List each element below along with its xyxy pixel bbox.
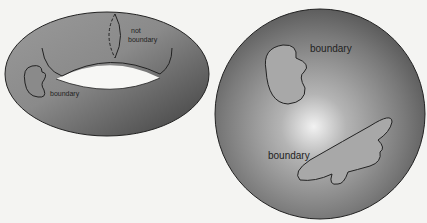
figure-canvas: not boundary boundary boundary boundary — [0, 0, 427, 223]
torus: not boundary boundary — [5, 12, 209, 136]
sphere-boundary-label-bottom: boundary — [268, 150, 310, 161]
sphere-boundary-label-top: boundary — [310, 43, 352, 54]
not-boundary-label-1: not — [131, 27, 141, 34]
torus-boundary-label: boundary — [50, 90, 80, 98]
sphere: boundary boundary — [215, 9, 425, 219]
not-boundary-label-2: boundary — [128, 36, 158, 44]
